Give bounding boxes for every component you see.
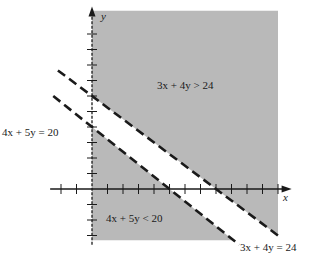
inequality-label-lower: 4x + 5y < 20 [106,212,163,224]
inequality-label-upper: 3x + 4y > 24 [157,79,214,91]
y-axis-label: y [100,10,106,22]
equation-label-4x5y: 4x + 5y = 20 [2,126,59,138]
x-axis-label: x [282,191,288,203]
inequality-diagram: 4x + 5y = 20 3x + 4y = 24 3x + 4y > 24 4… [0,0,311,270]
shaded-regions [92,11,278,240]
equation-label-3x4y: 3x + 4y = 24 [240,241,297,253]
